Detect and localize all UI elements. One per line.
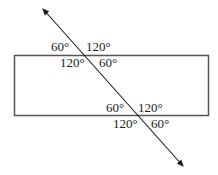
top-upper-left-angle: 60°: [51, 39, 69, 54]
bottom-upper-right-angle: 120°: [138, 100, 163, 115]
bottom-lower-right-angle: 60°: [151, 116, 169, 131]
top-upper-right-angle: 120°: [86, 39, 111, 54]
top-lower-right-angle: 60°: [99, 55, 117, 70]
bottom-lower-left-angle: 120°: [113, 116, 138, 131]
transversal-diagram: 60° 120° 120° 60° 60° 120° 120° 60°: [0, 0, 218, 175]
top-lower-left-angle: 120°: [60, 55, 85, 70]
bottom-upper-left-angle: 60°: [106, 100, 124, 115]
transversal-line: [43, 9, 183, 166]
